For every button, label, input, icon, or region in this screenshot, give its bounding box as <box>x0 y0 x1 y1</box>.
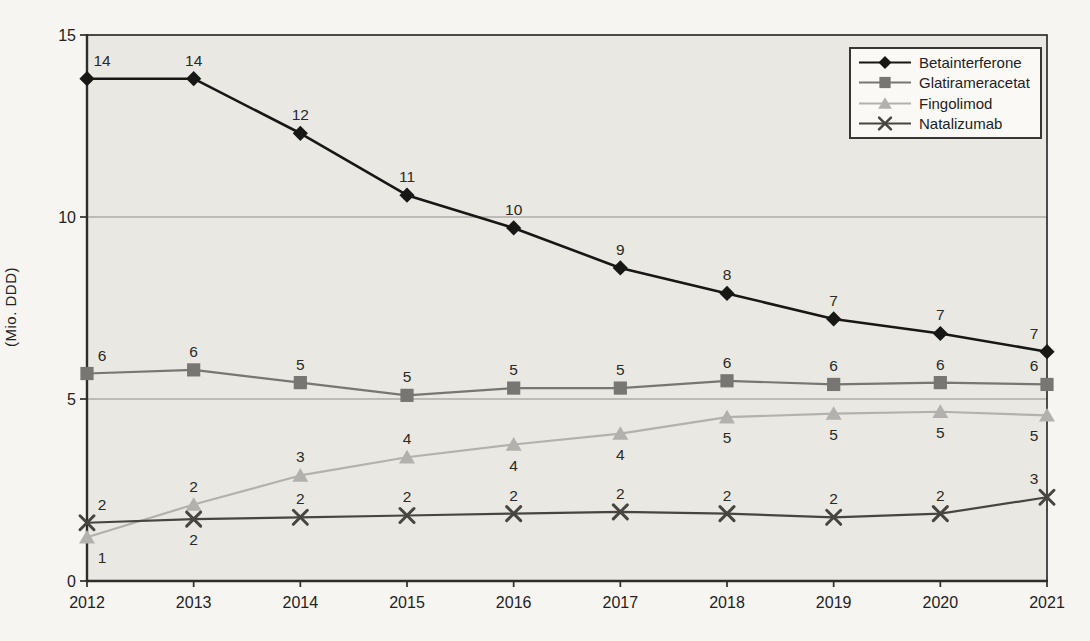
data-label-fingolimod-2014: 3 <box>296 448 305 465</box>
legend-swatch-triangle-icon <box>859 95 911 112</box>
data-label-glatirameracetat-2015: 5 <box>403 368 412 385</box>
data-label-fingolimod-2018: 5 <box>723 429 732 446</box>
legend-item-betainterferone: Betainterferone <box>859 53 1032 72</box>
data-label-fingolimod-2012: 1 <box>98 549 107 566</box>
legend-label-fingolimod: Fingolimod <box>919 96 992 111</box>
data-label-glatirameracetat-2019: 6 <box>829 357 838 374</box>
square-marker <box>934 376 947 389</box>
data-label-natalizumab-2016: 2 <box>509 487 518 504</box>
data-label-glatirameracetat-2016: 5 <box>509 361 518 378</box>
x-tick-label-2017: 2017 <box>603 594 639 611</box>
data-label-fingolimod-2016: 4 <box>509 457 518 474</box>
x-tick-label-2015: 2015 <box>389 594 425 611</box>
y-axis-title: (Mio. DDD) <box>2 237 24 377</box>
square-marker <box>400 389 413 402</box>
legend-label-natalizumab: Natalizumab <box>919 116 1002 131</box>
legend-item-glatirameracetat: Glatirameracetat <box>859 73 1032 92</box>
x-tick-label-2014: 2014 <box>283 594 319 611</box>
data-label-glatirameracetat-2021: 6 <box>1030 357 1039 374</box>
x-tick-label-2018: 2018 <box>709 594 745 611</box>
data-label-natalizumab-2019: 2 <box>829 490 838 507</box>
square-marker <box>1040 378 1053 391</box>
x-tick-label-2012: 2012 <box>69 594 105 611</box>
data-label-betainterferone-2013: 14 <box>185 52 203 69</box>
data-label-natalizumab-2021: 3 <box>1030 470 1039 487</box>
y-tick-label: 10 <box>58 209 76 226</box>
data-label-glatirameracetat-2013: 6 <box>189 343 198 360</box>
data-label-fingolimod-2015: 4 <box>403 430 412 447</box>
legend-label-betainterferone: Betainterferone <box>919 55 1022 70</box>
data-label-betainterferone-2016: 10 <box>505 201 523 218</box>
legend-label-glatirameracetat: Glatirameracetat <box>919 75 1030 90</box>
data-label-glatirameracetat-2012: 6 <box>98 347 107 364</box>
data-label-glatirameracetat-2014: 5 <box>296 356 305 373</box>
y-tick-label: 0 <box>67 573 76 590</box>
legend: BetainterferoneGlatirameracetatFingolimo… <box>849 47 1042 139</box>
square-marker <box>720 374 733 387</box>
x-tick-label-2016: 2016 <box>496 594 532 611</box>
legend-swatch-x-icon <box>859 115 911 132</box>
data-label-betainterferone-2017: 9 <box>616 241 625 258</box>
data-label-fingolimod-2019: 5 <box>829 426 838 443</box>
data-label-glatirameracetat-2020: 6 <box>936 356 945 373</box>
data-label-natalizumab-2014: 2 <box>296 490 305 507</box>
y-tick-label: 5 <box>67 391 76 408</box>
square-marker <box>294 376 307 389</box>
chart: 0510152012201320142015201620172018201920… <box>0 0 1090 641</box>
x-tick-label-2021: 2021 <box>1029 594 1065 611</box>
legend-swatch-diamond-icon <box>859 54 911 71</box>
square-marker <box>507 381 520 394</box>
data-label-glatirameracetat-2017: 5 <box>616 361 625 378</box>
data-label-betainterferone-2014: 12 <box>292 106 309 123</box>
data-label-natalizumab-2013: 2 <box>189 531 198 548</box>
data-label-betainterferone-2012: 14 <box>93 52 111 69</box>
data-label-betainterferone-2021: 7 <box>1030 325 1039 342</box>
data-label-fingolimod-2017: 4 <box>616 446 625 463</box>
data-label-fingolimod-2020: 5 <box>936 424 945 441</box>
data-label-fingolimod-2013: 2 <box>189 478 198 495</box>
legend-swatch-square-icon <box>859 74 911 91</box>
x-tick-label-2013: 2013 <box>176 594 212 611</box>
data-label-betainterferone-2020: 7 <box>936 306 945 323</box>
data-label-natalizumab-2017: 2 <box>616 485 625 502</box>
data-label-betainterferone-2018: 8 <box>723 266 732 283</box>
data-label-natalizumab-2020: 2 <box>936 487 945 504</box>
x-tick-label-2019: 2019 <box>816 594 852 611</box>
data-label-natalizumab-2018: 2 <box>723 487 732 504</box>
data-label-natalizumab-2015: 2 <box>403 488 412 505</box>
legend-item-fingolimod: Fingolimod <box>859 94 1032 113</box>
square-marker <box>879 77 890 88</box>
data-label-betainterferone-2015: 11 <box>399 168 415 185</box>
square-marker <box>187 363 200 376</box>
data-label-fingolimod-2021: 5 <box>1030 427 1039 444</box>
y-tick-label: 15 <box>58 27 76 44</box>
x-tick-label-2020: 2020 <box>923 594 959 611</box>
data-label-betainterferone-2019: 7 <box>829 292 838 309</box>
square-marker <box>827 378 840 391</box>
data-label-natalizumab-2012: 2 <box>98 496 107 513</box>
diamond-marker <box>879 56 892 69</box>
square-marker <box>614 381 627 394</box>
legend-item-natalizumab: Natalizumab <box>859 114 1032 133</box>
square-marker <box>80 367 93 380</box>
data-label-glatirameracetat-2018: 6 <box>723 354 732 371</box>
